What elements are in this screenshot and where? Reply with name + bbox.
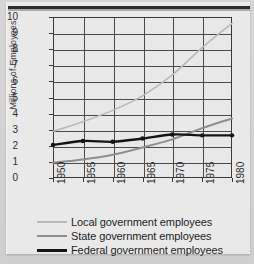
x-tick-label: 1950 [57, 162, 67, 184]
chart-legend: Local government employeesState governme… [37, 215, 247, 257]
page-background: Millions of Employees 012345678910 19501… [0, 0, 254, 264]
legend-swatch-icon [37, 249, 67, 252]
series-federal [51, 132, 234, 147]
x-tick-mark [232, 178, 233, 182]
x-tick-mark [53, 178, 54, 182]
legend-label: Local government employees [71, 216, 212, 228]
data-point-marker [200, 133, 204, 137]
data-point-marker [170, 132, 174, 136]
data-point-marker [140, 136, 144, 140]
legend-item: Federal government employees [37, 243, 247, 257]
legend-swatch-icon [37, 221, 67, 223]
x-tick-mark [83, 178, 84, 182]
data-point-marker [81, 139, 85, 143]
series-lines [53, 17, 232, 178]
y-tick-label: 3 [0, 125, 18, 135]
y-tick-label: 5 [0, 93, 18, 103]
x-tick-label: 1955 [87, 162, 97, 184]
y-tick-label: 9 [0, 28, 18, 38]
legend-label: State government employees [71, 230, 211, 242]
x-tick-label: 1960 [117, 162, 127, 184]
x-tick-mark [202, 178, 203, 182]
series-line [53, 23, 232, 131]
x-tick-mark [113, 178, 114, 182]
y-tick-label: 8 [0, 44, 18, 54]
x-tick-label: 1970 [176, 162, 186, 184]
legend-line-icon [37, 249, 67, 252]
legend-swatch-icon [37, 235, 67, 237]
y-tick-label: 4 [0, 109, 18, 119]
x-tick-label: 1980 [236, 162, 246, 184]
y-tick-label: 6 [0, 76, 18, 86]
legend-label: Federal government employees [71, 244, 223, 256]
legend-line-icon [37, 221, 67, 223]
legend-line-icon [37, 235, 67, 237]
data-point-marker [51, 143, 55, 147]
series-local [53, 23, 232, 131]
legend-item: Local government employees [37, 215, 247, 229]
y-tick-label: 10 [0, 12, 18, 22]
legend-item: State government employees [37, 229, 247, 243]
y-tick-label: 0 [0, 173, 18, 183]
x-tick-label: 1975 [206, 162, 216, 184]
y-tick-label: 7 [0, 60, 18, 70]
x-tick-mark [143, 178, 144, 182]
y-tick-label: 2 [0, 141, 18, 151]
x-tick-mark [172, 178, 173, 182]
line-chart: Millions of Employees 012345678910 19501… [0, 0, 254, 264]
data-point-marker [230, 133, 234, 137]
y-tick-label: 1 [0, 157, 18, 167]
x-tick-label: 1965 [147, 162, 157, 184]
data-point-marker [110, 140, 114, 144]
